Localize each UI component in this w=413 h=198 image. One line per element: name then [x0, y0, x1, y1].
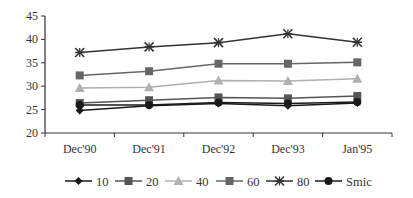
legend-label: 10	[96, 175, 109, 189]
y-axis: 202530354045	[26, 9, 45, 140]
x-tick-label: Jan'95	[342, 142, 372, 156]
series-40	[75, 74, 363, 92]
x-tick-label: Dec'93	[271, 142, 304, 156]
y-tick-label: 35	[26, 56, 38, 70]
legend-item-20: 20	[115, 175, 159, 189]
x-axis: Dec'90Dec'91Dec'92Dec'93Jan'95	[45, 133, 392, 156]
y-tick-label: 25	[26, 103, 38, 117]
x-tick-label: Dec'91	[132, 142, 165, 156]
circle-marker-icon	[145, 101, 153, 109]
legend-label: 40	[196, 175, 209, 189]
legend-item-60: 60	[216, 175, 260, 189]
star-marker-icon	[214, 38, 223, 47]
y-tick-label: 30	[26, 79, 38, 93]
star-marker-icon	[75, 48, 84, 57]
square-marker-icon	[284, 60, 292, 68]
x-tick-label: Dec'92	[202, 142, 235, 156]
square-marker-icon	[145, 67, 153, 75]
y-tick-label: 45	[26, 9, 38, 23]
legend-item-10: 10	[65, 175, 109, 189]
square-marker-icon	[226, 177, 234, 185]
legend-label: 20	[146, 175, 159, 189]
circle-marker-icon	[215, 99, 223, 107]
legend-item-smic: Smic	[315, 175, 372, 189]
square-marker-icon	[215, 60, 223, 68]
circle-marker-icon	[325, 177, 333, 185]
circle-marker-icon	[353, 98, 361, 106]
diamond-marker-icon	[75, 177, 83, 185]
square-marker-icon	[125, 177, 133, 185]
star-marker-icon	[283, 29, 292, 38]
star-marker-icon	[353, 38, 362, 47]
circle-marker-icon	[76, 101, 84, 109]
x-tick-label: Dec'90	[63, 142, 96, 156]
star-marker-icon	[275, 177, 284, 186]
plot-area	[75, 29, 363, 114]
y-tick-label: 40	[26, 32, 38, 46]
square-marker-icon	[76, 71, 84, 79]
legend-label: 60	[247, 175, 260, 189]
line-chart: 202530354045 Dec'90Dec'91Dec'92Dec'93Jan…	[0, 0, 413, 198]
y-tick-label: 20	[26, 126, 38, 140]
legend-label: 80	[297, 175, 310, 189]
square-marker-icon	[353, 58, 361, 66]
star-marker-icon	[145, 42, 154, 51]
legend: 1020406080Smic	[65, 175, 372, 189]
legend-label: Smic	[346, 175, 372, 189]
series-80	[75, 29, 362, 57]
legend-item-40: 40	[165, 175, 209, 189]
legend-item-80: 80	[266, 175, 310, 189]
circle-marker-icon	[284, 100, 292, 108]
